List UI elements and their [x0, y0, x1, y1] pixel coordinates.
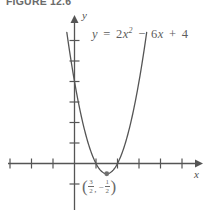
vertex-comma: ,: [94, 184, 96, 194]
equation-op2: +: [167, 27, 178, 41]
equation-op1: −: [136, 27, 147, 41]
vertex-annotation: ( 3 2 , − 1 2 ): [82, 178, 116, 195]
equation-term1-exponent: 2: [129, 26, 133, 35]
vertex-close-paren: ): [111, 178, 117, 195]
vertex-x-fraction: 3 2: [88, 179, 94, 195]
equation-term3: 4: [182, 27, 189, 41]
vertex-point: [104, 171, 109, 176]
figure-container: FIGURE 12.6: [0, 0, 210, 219]
x-axis-arrowhead: [195, 160, 203, 168]
vertex-y-fraction: 1 2: [105, 179, 111, 195]
equation-lhs: y: [92, 27, 98, 41]
parabola-curve: [67, 32, 147, 173]
equation-label: y = 2x2 − 6x + 4: [92, 26, 188, 42]
vertex-minus-sign: −: [98, 182, 103, 192]
vertex-open-paren: (: [82, 178, 88, 195]
equation-term2-var: x: [158, 27, 164, 41]
vertex-x-numerator: 3: [88, 179, 94, 186]
equation-equals: =: [101, 27, 112, 41]
y-axis-arrowhead: [71, 15, 79, 23]
vertex-y-denominator: 2: [105, 188, 111, 195]
vertex-x-denominator: 2: [88, 188, 94, 195]
vertex-y-numerator: 1: [105, 179, 111, 186]
y-axis-label: y: [82, 9, 87, 21]
x-axis-label: x: [194, 168, 199, 180]
